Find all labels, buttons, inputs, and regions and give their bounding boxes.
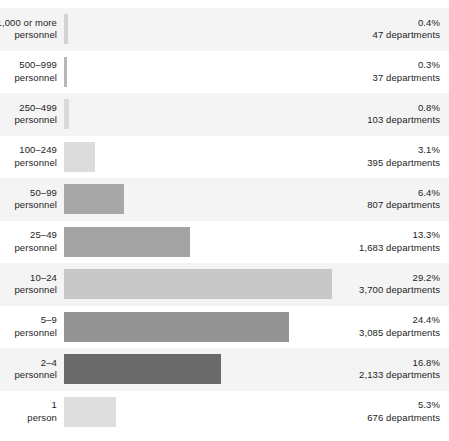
category-label: 1,000 or morepersonnel [0, 8, 57, 51]
category-label-line2: person [27, 412, 57, 425]
category-label-line2: personnel [14, 114, 57, 127]
category-label-line1: 100–249 [19, 144, 57, 157]
category-label: 100–249personnel [0, 136, 57, 179]
category-label-line2: personnel [14, 29, 57, 42]
bar-track [64, 8, 449, 51]
chart-row: 250–499personnel0.8%103 departments [0, 93, 449, 136]
chart-row: 1,000 or morepersonnel0.4%47 departments [0, 8, 449, 51]
bar-chart: 1,000 or morepersonnel0.4%47 departments… [0, 0, 449, 441]
category-label: 1person [0, 391, 57, 434]
category-label-line2: personnel [14, 327, 57, 340]
bar-track [64, 51, 449, 94]
chart-row: 1person5.3%676 departments [0, 391, 449, 434]
bar [64, 227, 190, 257]
bar [64, 14, 68, 44]
chart-row: 2–4personnel16.8%2,133 departments [0, 348, 449, 391]
bar-track [64, 136, 449, 179]
bar [64, 99, 69, 129]
category-label-line1: 25–49 [30, 229, 57, 242]
chart-row: 500–999personnel0.3%37 departments [0, 51, 449, 94]
category-label-line2: personnel [14, 369, 57, 382]
bar [64, 184, 124, 214]
chart-row: 10–24personnel29.2%3,700 departments [0, 263, 449, 306]
category-label-line1: 1,000 or more [0, 17, 57, 30]
category-label: 5–9personnel [0, 306, 57, 349]
bar-track [64, 391, 449, 434]
category-label: 50–99personnel [0, 178, 57, 221]
bar [64, 269, 332, 299]
category-label-line1: 500–999 [19, 59, 57, 72]
category-label-line1: 2–4 [41, 357, 57, 370]
category-label-line2: personnel [14, 199, 57, 212]
bar [64, 142, 95, 172]
category-label: 500–999personnel [0, 51, 57, 94]
chart-rows: 1,000 or morepersonnel0.4%47 departments… [0, 8, 449, 433]
category-label-line1: 50–99 [30, 187, 57, 200]
category-label: 2–4personnel [0, 348, 57, 391]
bar [64, 354, 221, 384]
category-label-line2: personnel [14, 242, 57, 255]
category-label-line1: 10–24 [30, 272, 57, 285]
category-label-line1: 250–499 [19, 102, 57, 115]
category-label-line2: personnel [14, 157, 57, 170]
bar-track [64, 348, 449, 391]
chart-row: 25–49personnel13.3%1,683 departments [0, 221, 449, 264]
chart-row: 5–9personnel24.4%3,085 departments [0, 306, 449, 349]
category-label-line1: 5–9 [41, 314, 57, 327]
bar [64, 312, 289, 342]
bar [64, 397, 116, 427]
category-label-line2: personnel [14, 72, 57, 85]
bar-track [64, 221, 449, 264]
bar-track [64, 178, 449, 221]
chart-row: 50–99personnel6.4%807 departments [0, 178, 449, 221]
category-label: 25–49personnel [0, 221, 57, 264]
category-label: 250–499personnel [0, 93, 57, 136]
category-label-line2: personnel [14, 284, 57, 297]
bar [64, 57, 67, 87]
bar-track [64, 93, 449, 136]
category-label-line1: 1 [52, 399, 57, 412]
chart-row: 100–249personnel3.1%395 departments [0, 136, 449, 179]
category-label: 10–24personnel [0, 263, 57, 306]
bar-track [64, 306, 449, 349]
bar-track [64, 263, 449, 306]
